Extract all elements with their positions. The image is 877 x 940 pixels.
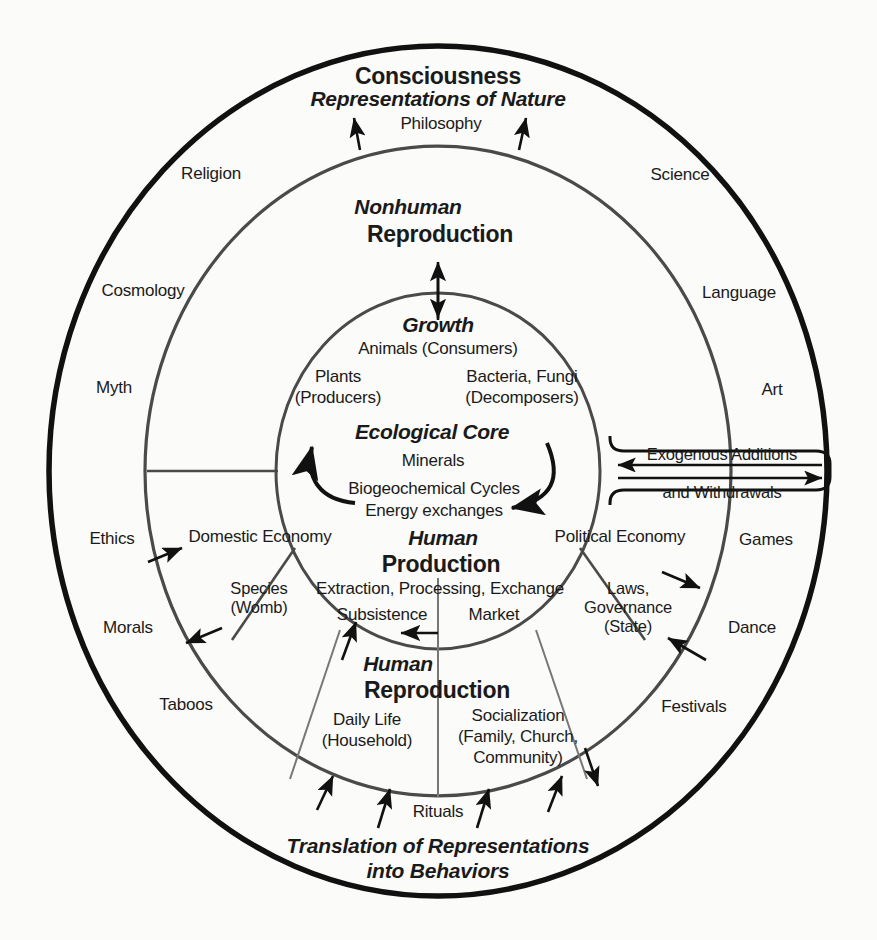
heading-nonhuman-reproduction: Reproduction — [367, 221, 513, 247]
outer-label-festivals: Festivals — [661, 697, 726, 716]
heading-representations-of-nature: Representations of Nature — [310, 87, 565, 111]
caption-translation-line1: Translation of Representations — [287, 834, 590, 859]
label-energy-exchanges: Energy exchanges — [365, 501, 503, 520]
label-bacteria-fungi: Bacteria, Fungi — [466, 367, 577, 386]
outer-label-morals: Morals — [103, 618, 153, 637]
arrow-bottom-1 — [317, 776, 333, 810]
heading-human-reproduction-bold: Reproduction — [364, 677, 510, 703]
outer-label-cosmology: Cosmology — [101, 281, 184, 300]
label-biogeochemical-cycles: Biogeochemical Cycles — [348, 479, 520, 498]
heading-ecological-core: Ecological Core — [355, 420, 509, 444]
arrow-into-production-left — [342, 622, 356, 660]
heading-human-production-bold: Production — [382, 551, 500, 577]
label-governance: Governance — [584, 598, 672, 617]
arrow-bottom-2 — [378, 789, 390, 828]
outer-label-games: Games — [739, 530, 793, 549]
label-subsistence: Subsistence — [337, 605, 427, 624]
label-plants-producers: (Producers) — [295, 388, 382, 407]
outer-label-science: Science — [650, 165, 709, 184]
label-domestic-economy: Domestic Economy — [188, 527, 331, 546]
heading-human-production-italic: Human — [408, 526, 478, 550]
label-state: (State) — [604, 617, 652, 636]
outer-label-myth: Myth — [96, 378, 132, 397]
label-household: (Household) — [322, 731, 412, 750]
label-plants: Plants — [315, 367, 361, 386]
caption-translation-line2: into Behaviors — [366, 859, 509, 884]
label-decomposers: (Decomposers) — [465, 388, 579, 407]
label-socialization: Socialization — [472, 706, 565, 725]
label-community: Community) — [473, 748, 563, 767]
label-minerals: Minerals — [402, 451, 465, 470]
outer-label-language: Language — [702, 283, 776, 302]
outer-label-art: Art — [761, 380, 782, 399]
label-daily-life: Daily Life — [333, 710, 401, 729]
heading-consciousness: Consciousness — [355, 63, 521, 89]
arrow-games-outward — [662, 572, 700, 588]
label-laws: Laws, — [607, 579, 649, 598]
label-philosophy: Philosophy — [400, 114, 481, 133]
arrow-up-right-consciousness — [519, 118, 526, 150]
label-species-womb: (Womb) — [230, 598, 287, 617]
label-rituals: Rituals — [413, 802, 464, 821]
label-species: Species — [230, 579, 287, 598]
label-extraction-processing-exchange: Extraction, Processing, Exchange — [316, 579, 564, 598]
arrow-bottom-5-outward — [585, 748, 598, 786]
heading-nonhuman: Nonhuman — [354, 195, 461, 219]
arrow-morals-outward — [186, 628, 222, 643]
arrow-up-left-consciousness — [354, 118, 360, 150]
outer-label-religion: Religion — [181, 164, 241, 183]
outer-label-dance: Dance — [728, 618, 776, 637]
label-animals-consumers: Animals (Consumers) — [358, 339, 518, 358]
outer-label-taboos: Taboos — [159, 695, 213, 714]
diagram-canvas: Consciousness Representations of Nature … — [0, 0, 877, 940]
label-political-economy: Political Economy — [555, 527, 686, 546]
heading-growth: Growth — [402, 313, 474, 337]
heading-human-reproduction-italic: Human — [363, 652, 433, 676]
outer-label-ethics: Ethics — [89, 529, 134, 548]
label-family-church: (Family, Church, — [458, 727, 578, 746]
label-exogenous-additions: Exogenous Additions — [647, 445, 797, 464]
arrow-bottom-4 — [548, 776, 562, 812]
label-market: Market — [469, 605, 520, 624]
spoke-reproduction-left — [290, 630, 340, 779]
arrow-bottom-3 — [477, 789, 489, 828]
label-and-withdrawals: and Withdrawals — [663, 483, 782, 502]
